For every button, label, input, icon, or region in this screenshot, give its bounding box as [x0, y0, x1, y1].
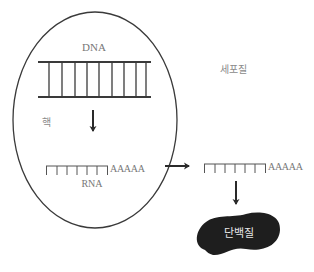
nuclear-poly-a-tail: AAAAA — [110, 163, 146, 174]
dna-double-helix-icon — [38, 62, 151, 97]
cytoplasmic-rna-strand-icon — [204, 164, 266, 173]
cytoplasmic-poly-a-tail: AAAAA — [268, 161, 304, 172]
cytoplasm-label: 세포질 — [220, 64, 247, 75]
gene-expression-diagram: DNA 핵 AAAAA RNA 세포질 — [0, 0, 314, 272]
nucleus-label: 핵 — [42, 117, 51, 128]
dna-label: DNA — [82, 41, 106, 53]
protein-label: 단백질 — [224, 227, 254, 240]
rna-label: RNA — [81, 178, 103, 189]
nuclear-rna-strand-icon — [46, 166, 108, 175]
